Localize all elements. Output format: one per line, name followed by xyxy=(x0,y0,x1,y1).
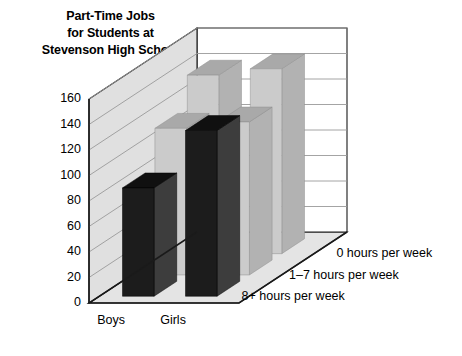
y-axis-tick-120: 120 xyxy=(37,143,81,156)
y-axis-tick-40: 40 xyxy=(37,245,81,258)
y-axis-tick-80: 80 xyxy=(37,194,81,207)
bar-1-7-hours-per-week-girls-side xyxy=(249,107,272,275)
y-axis-tick-60: 60 xyxy=(37,220,81,233)
bar-8-hours-per-week-boys-side xyxy=(154,173,177,296)
y-axis-tick-160: 160 xyxy=(37,92,81,105)
y-axis-tick-100: 100 xyxy=(37,169,81,182)
y-axis-tick-20: 20 xyxy=(37,271,81,284)
bar-8-hours-per-week-boys-front xyxy=(123,188,154,296)
depth-axis-label-1-7-hours: 1–7 hours per week xyxy=(289,269,399,282)
bar-8-hours-per-week-girls-side xyxy=(217,116,240,297)
x-axis-label-girls: Girls xyxy=(160,314,186,327)
x-axis-label-boys: Boys xyxy=(97,314,125,327)
depth-axis-label-8-plus-hours: 8+ hours per week xyxy=(242,290,345,303)
depth-axis-label-0-hours: 0 hours per week xyxy=(336,247,432,260)
y-axis-tick-0: 0 xyxy=(37,296,81,309)
y-axis-tick-140: 140 xyxy=(37,118,81,131)
chart-figure: Part-Time Jobs for Students at Stevenson… xyxy=(0,0,462,356)
bar-8-hours-per-week-girls-front xyxy=(186,131,218,297)
bar-0-hours-per-week-girls-side xyxy=(282,54,305,254)
